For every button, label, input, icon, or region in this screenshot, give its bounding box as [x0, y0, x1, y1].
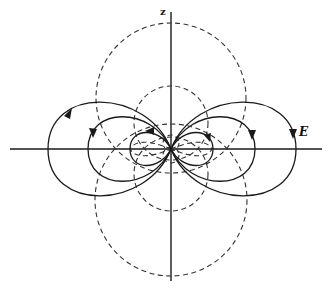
field-label-E: E — [299, 125, 308, 139]
arrow-middle-right — [248, 130, 256, 140]
z-axis-label: z — [160, 6, 166, 17]
field-lines-svg — [0, 0, 335, 288]
arrow-outer-left — [64, 108, 72, 119]
dipole-field-diagram: z E — [0, 0, 335, 288]
arrow-outer-right — [289, 129, 297, 139]
